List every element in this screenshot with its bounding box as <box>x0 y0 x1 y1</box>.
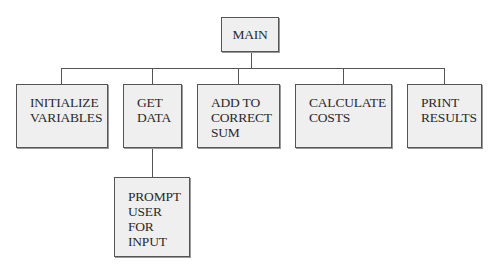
box-add-to-correct-sum: ADD TO CORRECT SUM <box>197 84 280 148</box>
box-print-results: PRINT RESULTS <box>407 84 482 148</box>
connector-main-down <box>251 52 252 69</box>
connector-horizontal-bus <box>61 68 445 69</box>
box-calculate-costs: CALCULATE COSTS <box>295 84 392 148</box>
connector-to-add-to-correct-sum <box>238 68 239 84</box>
connector-to-print-results <box>444 68 445 84</box>
connector-to-get-data <box>152 68 153 84</box>
hierarchy-diagram: MAIN INITIALIZE VARIABLES GET DATA ADD T… <box>0 0 499 275</box>
box-initialize-variables: INITIALIZE VARIABLES <box>16 84 108 148</box>
connector-to-calculate-costs <box>343 68 344 84</box>
box-main: MAIN <box>221 17 279 52</box>
connector-get-data-to-prompt <box>152 148 153 177</box>
box-get-data: GET DATA <box>123 84 182 148</box>
box-prompt-user-for-input: PROMPT USER FOR INPUT <box>114 177 190 257</box>
connector-to-initialize-variables <box>61 68 62 84</box>
